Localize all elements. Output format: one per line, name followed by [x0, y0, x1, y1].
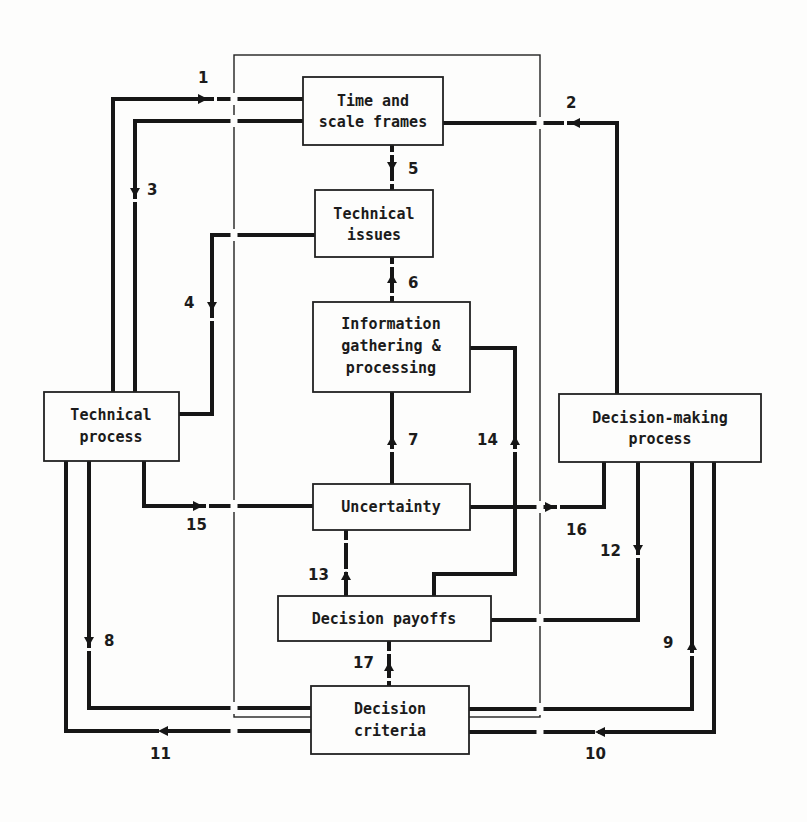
box-uncertainty: Uncertainty [313, 484, 470, 530]
box-label: Time and [337, 92, 409, 110]
box-label: Decision [354, 700, 426, 718]
arrow-right-icon [198, 94, 208, 104]
arrow-up-icon [341, 571, 351, 580]
arrow-down-icon [207, 302, 217, 311]
connector-16 [470, 462, 604, 507]
label-10: 10 [585, 745, 606, 763]
box-label: process [628, 430, 691, 448]
label-4: 4 [184, 294, 194, 312]
box-time-scale-frames: Time and scale frames [303, 77, 443, 145]
box-information-gathering: Information gathering & processing [313, 302, 470, 392]
label-12: 12 [600, 542, 621, 560]
box-label: Decision-making [592, 409, 727, 427]
box-label: process [79, 428, 142, 446]
box-label: Uncertainty [341, 498, 440, 516]
connector-15 [144, 461, 313, 506]
arrow-down-icon [633, 545, 643, 554]
arrow-up-icon [687, 641, 697, 650]
arrow-right-icon [545, 502, 555, 512]
box-label: Technical [333, 205, 414, 223]
connector-10 [469, 462, 714, 732]
arrow-right-icon [193, 501, 203, 511]
box-decision-payoffs: Decision payoffs [278, 596, 491, 641]
arrow-down-icon [84, 637, 94, 646]
connector-4 [179, 235, 315, 414]
label-15: 15 [186, 516, 207, 534]
arrow-up-icon [384, 662, 394, 671]
box-label: criteria [354, 722, 426, 740]
process-flow-diagram: Time and scale frames Technical issues I… [0, 0, 807, 822]
box-label: Decision payoffs [312, 610, 457, 628]
label-5: 5 [408, 160, 418, 178]
connector-9 [469, 462, 692, 709]
box-label: gathering & [341, 337, 441, 355]
label-16: 16 [566, 521, 587, 539]
box-label: scale frames [319, 113, 427, 131]
box-decision-making-process: Decision-making process [559, 394, 761, 462]
box-label: issues [347, 226, 401, 244]
arrow-up-icon [387, 436, 397, 445]
label-14: 14 [477, 431, 498, 449]
label-3: 3 [147, 181, 157, 199]
arrow-left-icon [570, 118, 580, 128]
arrow-up-icon [387, 274, 397, 283]
label-17: 17 [353, 654, 374, 672]
connector-11 [66, 461, 311, 731]
box-label: Information [341, 315, 440, 333]
connector-3 [135, 121, 303, 392]
label-13: 13 [308, 566, 329, 584]
connector-8 [89, 461, 311, 708]
connector-1 [113, 99, 303, 392]
label-6: 6 [408, 274, 418, 292]
arrow-down-icon [387, 162, 397, 171]
label-1: 1 [198, 69, 208, 87]
arrow-down-icon [130, 188, 140, 197]
label-11: 11 [150, 745, 171, 763]
label-8: 8 [104, 632, 114, 650]
box-decision-criteria: Decision criteria [311, 686, 469, 754]
box-label: Technical [70, 406, 151, 424]
box-technical-process: Technical process [44, 392, 179, 461]
box-label: processing [346, 359, 436, 377]
label-9: 9 [663, 634, 673, 652]
box-technical-issues: Technical issues [315, 190, 433, 257]
arrow-up-icon [510, 436, 520, 445]
label-7: 7 [408, 431, 418, 449]
label-2: 2 [566, 94, 576, 112]
